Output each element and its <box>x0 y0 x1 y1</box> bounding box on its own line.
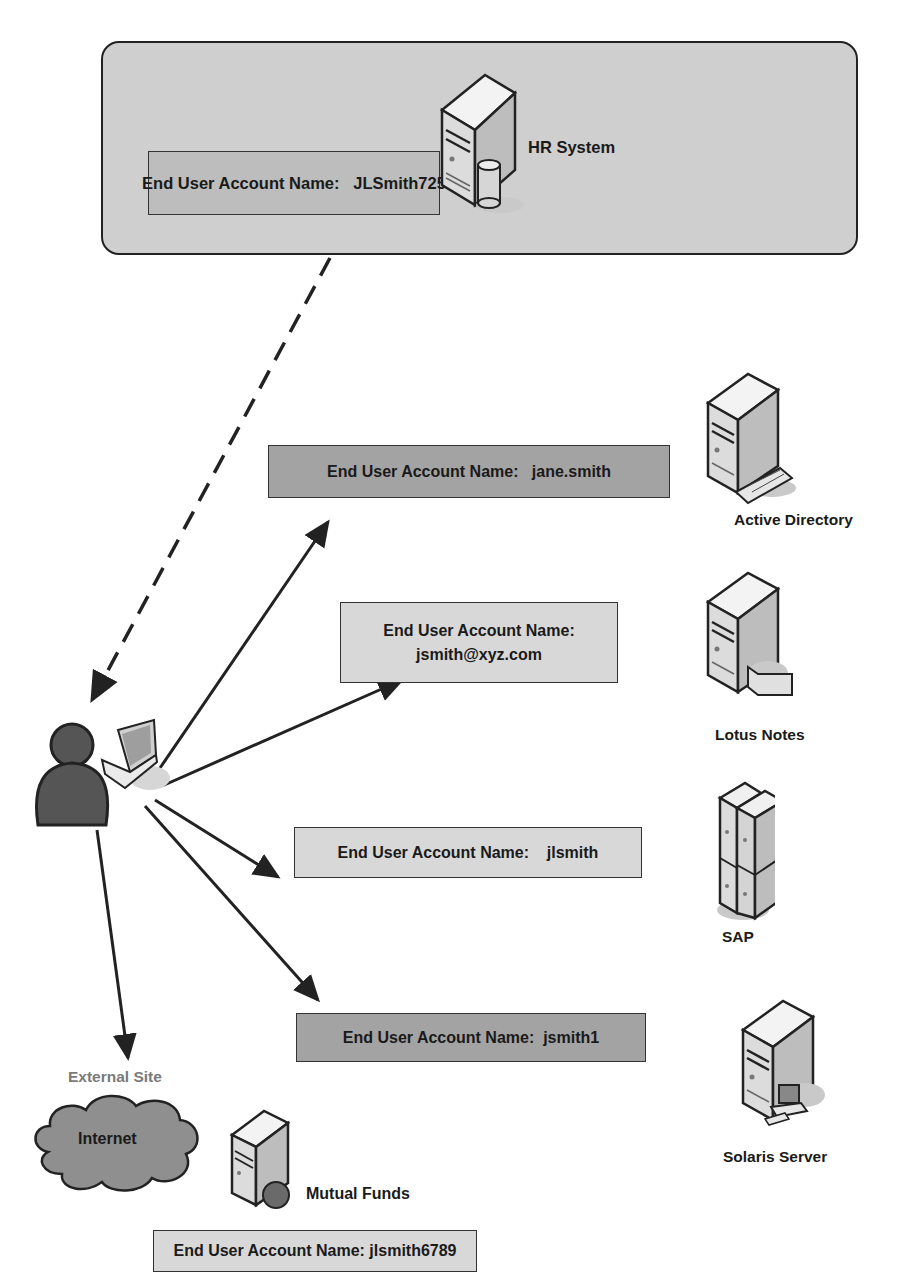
arrow-to-solaris <box>145 806 318 1000</box>
sap-account-box: End User Account Name: jlsmith <box>294 827 642 878</box>
hr-account-box: End User Account Name: JLSmith725 <box>148 151 440 215</box>
lotus-notes-account-box: End User Account Name: jsmith@xyz.com <box>340 602 618 683</box>
server-with-keyboard-icon <box>700 368 810 508</box>
lotus-notes-label: Lotus Notes <box>715 726 805 744</box>
lotus-notes-account-line2: jsmith@xyz.com <box>416 643 542 667</box>
arrow-to-internet <box>97 830 128 1058</box>
hr-account-text: End User Account Name: JLSmith725 <box>142 171 446 195</box>
solaris-account-box: End User Account Name: jsmith1 <box>296 1013 646 1062</box>
mutual-funds-label: Mutual Funds <box>306 1185 410 1203</box>
sap-account-text: End User Account Name: jlsmith <box>338 841 599 865</box>
server-with-database-icon <box>430 55 545 215</box>
lotus-notes-account-line1: End User Account Name: <box>383 619 574 643</box>
server-with-workstation-icon <box>735 995 840 1135</box>
server-with-mail-icon <box>700 567 810 707</box>
mutual-funds-account-text: End User Account Name: jlsmith6789 <box>173 1239 456 1263</box>
mutual-funds-account-box: End User Account Name: jlsmith6789 <box>153 1230 477 1272</box>
hr-system-label: HR System <box>528 138 615 157</box>
active-directory-account-text: End User Account Name: jane.smith <box>327 460 611 484</box>
active-directory-label: Active Directory <box>734 511 853 529</box>
internet-cloud-icon: Internet <box>28 1090 208 1195</box>
arrow-to-lotus-notes <box>162 680 402 786</box>
sap-label: SAP <box>722 928 754 946</box>
server-cluster-icon <box>665 768 775 923</box>
active-directory-account-box: End User Account Name: jane.smith <box>268 445 670 498</box>
server-with-globe-icon <box>224 1105 304 1210</box>
solaris-label: Solaris Server <box>723 1148 827 1166</box>
internet-label: Internet <box>78 1130 137 1147</box>
solaris-account-text: End User Account Name: jsmith1 <box>343 1026 599 1050</box>
arrow-to-active-directory <box>160 522 328 768</box>
user-with-laptop-icon <box>30 710 170 835</box>
external-site-heading: External Site <box>68 1068 162 1086</box>
